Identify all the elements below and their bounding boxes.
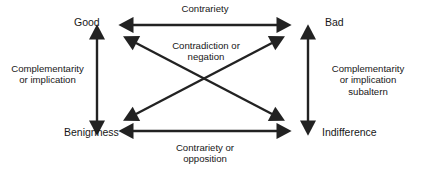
edge-label-contrariety-top: Contrariety [155,3,255,14]
edge-label-complementarity-left: Complementarity or implication [0,63,95,86]
node-label-good: Good [74,16,100,28]
edge-label-complementarity-right: Complementarity or implication subaltern [316,63,420,97]
edge-label-contrariety-bottom: Contrariety or opposition [155,142,255,165]
edge-label-contradiction-or-negation: Contradiction or negation [151,40,261,63]
node-label-bad: Bad [325,16,344,28]
node-label-benignness: Benignness [64,126,119,138]
semiotic-square-diagram: Good Bad Benignness Indifference Contrar… [0,0,422,177]
node-label-indifference: Indifference [322,126,377,138]
